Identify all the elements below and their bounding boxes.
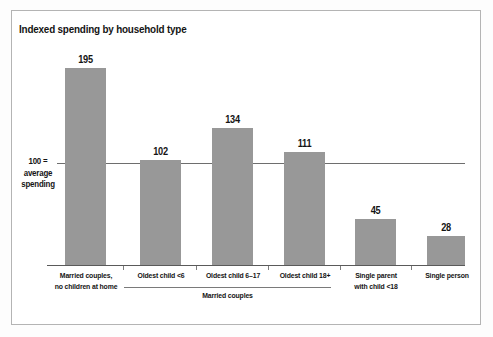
- bar-oldest-child-under-6[interactable]: [140, 160, 181, 265]
- x-axis-baseline: [47, 265, 465, 266]
- plot-area: 100 = average spending 195 102 134 111 4…: [0, 0, 493, 337]
- bar-value-28: 28: [429, 222, 464, 233]
- reference-line-label: 100 = average spending: [18, 156, 57, 191]
- axis-tick: [340, 266, 341, 270]
- category-label-line-2: with child <18: [338, 282, 414, 293]
- bar-married-no-children[interactable]: [65, 68, 106, 265]
- ref-label-line-1: 100 =: [18, 156, 57, 168]
- bar-value-102: 102: [142, 146, 180, 157]
- category-label-line-1: Married couples,: [43, 271, 129, 282]
- bar-value-45: 45: [357, 205, 395, 216]
- bar-oldest-child-18-plus[interactable]: [284, 152, 325, 265]
- category-label-married-no-children: Married couples, no children at home: [43, 271, 129, 292]
- reference-line-100: [57, 163, 465, 164]
- ref-label-line-2: average: [18, 168, 57, 180]
- category-label-line-1: Single person: [410, 271, 484, 282]
- category-label-line-1: Single parent: [338, 271, 414, 282]
- bar-oldest-child-6-17[interactable]: [212, 128, 253, 265]
- category-label-line-2: no children at home: [43, 282, 129, 293]
- axis-tick: [123, 266, 124, 270]
- group-bracket-line: [124, 287, 331, 288]
- bar-value-195: 195: [67, 54, 105, 65]
- axis-tick: [411, 266, 412, 270]
- category-label-line-1: Oldest child 6–17: [195, 271, 271, 282]
- category-label-oldest-child-6-17: Oldest child 6–17: [195, 271, 271, 282]
- bar-single-person[interactable]: [427, 236, 465, 265]
- category-label-oldest-child-under-6: Oldest child <6: [123, 271, 199, 282]
- bar-single-parent[interactable]: [355, 219, 396, 265]
- bar-value-134: 134: [214, 114, 252, 125]
- bar-value-111: 111: [286, 138, 324, 149]
- chart-figure: Indexed spending by household type 100 =…: [0, 0, 493, 337]
- category-label-line-1: Oldest child 18+: [267, 271, 343, 282]
- category-label-single-person: Single person: [410, 271, 484, 282]
- axis-tick: [268, 266, 269, 270]
- category-label-line-1: Oldest child <6: [123, 271, 199, 282]
- category-label-single-parent: Single parent with child <18: [338, 271, 414, 292]
- category-label-oldest-child-18-plus: Oldest child 18+: [267, 271, 343, 282]
- group-bracket-label: Married couples: [131, 291, 324, 300]
- ref-label-line-3: spending: [18, 179, 57, 191]
- axis-tick: [196, 266, 197, 270]
